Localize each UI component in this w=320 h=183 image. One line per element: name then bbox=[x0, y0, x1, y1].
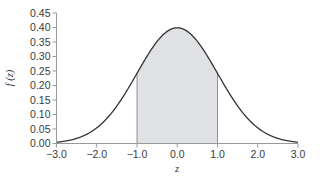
y-tick-label: 0.45 bbox=[30, 7, 51, 19]
x-tick-label: 1.0 bbox=[210, 148, 225, 160]
y-axis-label: f (z) bbox=[4, 69, 16, 86]
x-axis: −3.0−2.0−1.00.01.02.03.0 bbox=[46, 144, 305, 160]
y-tick-label: 0.10 bbox=[30, 108, 51, 120]
y-tick-label: 0.20 bbox=[30, 79, 51, 91]
x-tick-label: −1.0 bbox=[127, 148, 148, 160]
y-tick-label: 0.35 bbox=[30, 36, 51, 48]
normal-distribution-chart: 0.000.050.100.150.200.250.300.350.400.45… bbox=[0, 0, 320, 183]
y-tick-label: 0.25 bbox=[30, 65, 51, 77]
y-tick-label: 0.40 bbox=[30, 21, 51, 33]
y-tick-label: 0.15 bbox=[30, 94, 51, 106]
x-tick-label: −3.0 bbox=[46, 148, 67, 160]
x-tick-label: −2.0 bbox=[86, 148, 107, 160]
y-axis: 0.000.050.100.150.200.250.300.350.400.45 bbox=[30, 7, 56, 150]
x-axis-label: z bbox=[174, 163, 179, 174]
y-tick-label: 0.05 bbox=[30, 123, 51, 135]
y-tick-label: 0.30 bbox=[30, 50, 51, 62]
x-tick-label: 0.0 bbox=[170, 148, 185, 160]
x-tick-label: 2.0 bbox=[250, 148, 265, 160]
shaded-area bbox=[137, 28, 218, 144]
x-tick-label: 3.0 bbox=[291, 148, 306, 160]
